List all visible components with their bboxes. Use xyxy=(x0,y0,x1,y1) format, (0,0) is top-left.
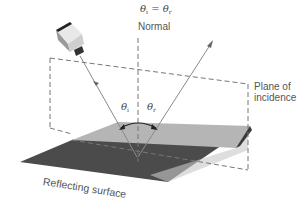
reflected-arrow-icon xyxy=(207,40,213,48)
equals-sign: = xyxy=(151,3,159,14)
theta-r-subscript: r xyxy=(169,8,172,15)
theta-r-label: θr xyxy=(147,101,156,115)
theta-i-subscript: i xyxy=(127,106,129,113)
theta-i-label: θi xyxy=(121,101,129,115)
theta-r-subscript: r xyxy=(153,106,156,113)
plane-label-line2: incidence xyxy=(254,92,296,103)
normal-label: Normal xyxy=(138,21,170,32)
theta-i-subscript: i xyxy=(146,8,148,15)
plane-of-incidence-label: Plane of incidence xyxy=(254,81,296,103)
title-equation: θi = θr xyxy=(140,3,172,17)
incident-arrow-icon xyxy=(93,81,99,86)
plane-label-line1: Plane of xyxy=(254,81,296,92)
light-source-icon xyxy=(56,22,84,56)
